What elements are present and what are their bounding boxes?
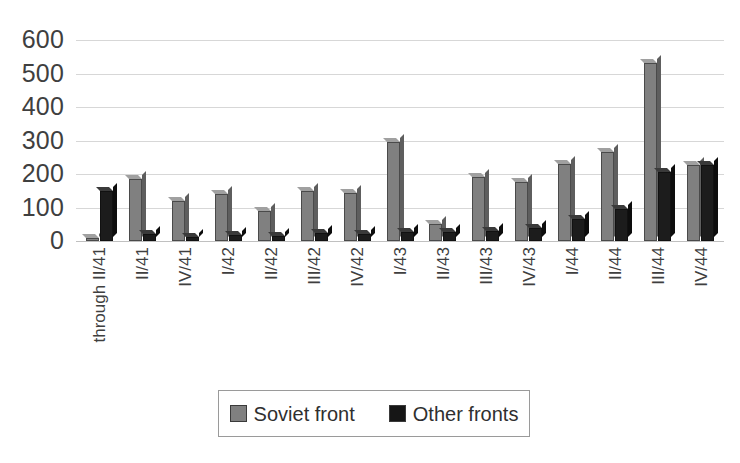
bar-soviet (387, 142, 400, 241)
y-axis-tick: 500 (22, 61, 64, 86)
x-axis-label: III/42 (306, 247, 323, 285)
x-axis-tick: IV/41 (164, 247, 207, 372)
bar-other (572, 219, 585, 241)
bar-cluster (379, 40, 422, 241)
bar-cluster (507, 40, 550, 241)
bar-clusters (76, 40, 724, 241)
bar-cluster (250, 40, 293, 241)
bar-other (443, 232, 456, 241)
bar-other (529, 228, 542, 241)
bar-cluster (636, 40, 679, 241)
x-axis-label: II/43 (434, 247, 451, 280)
x-axis-label: IV/41 (177, 247, 194, 287)
bar-cluster (679, 40, 722, 241)
y-axis-tick: 600 (22, 27, 64, 52)
soviet-swatch-icon (230, 405, 247, 422)
bar-soviet (515, 182, 528, 241)
bar-other (701, 165, 714, 241)
bar-cluster (207, 40, 250, 241)
x-axis-tick: IV/44 (679, 247, 722, 372)
x-axis-tick: III/44 (636, 247, 679, 372)
bar-soviet (86, 238, 99, 241)
bar-cluster (550, 40, 593, 241)
x-axis-tick: II/43 (422, 247, 465, 372)
bar-other (486, 231, 499, 241)
y-axis-tick: 200 (22, 161, 64, 186)
bar-other (315, 233, 328, 241)
x-axis-label: II/44 (606, 247, 623, 280)
y-axis-tick: 300 (22, 128, 64, 153)
bar-cluster (422, 40, 465, 241)
bar-soviet (644, 63, 657, 241)
x-axis-tick: through II/41 (78, 247, 121, 372)
x-axis-tick: II/42 (250, 247, 293, 372)
bar-other (358, 234, 371, 241)
x-axis-label: III/43 (477, 247, 494, 285)
x-axis-tick: II/41 (121, 247, 164, 372)
bar-other (401, 232, 414, 241)
bar-other (229, 235, 242, 241)
gridline-baseline (76, 241, 724, 242)
bar-cluster (336, 40, 379, 241)
x-axis-tick: I/42 (207, 247, 250, 372)
legend-label: Soviet front (254, 404, 355, 424)
x-axis-tick: III/42 (293, 247, 336, 372)
other-swatch-icon (389, 405, 406, 422)
bar-soviet (258, 211, 271, 241)
bar-other (658, 172, 671, 241)
x-axis-label: IV/44 (692, 247, 709, 287)
bar-cluster (121, 40, 164, 241)
x-axis-label: I/42 (220, 247, 237, 275)
bar-soviet (601, 152, 614, 241)
bar-other (186, 237, 199, 241)
y-axis-tick: 400 (22, 94, 64, 119)
x-axis-label: I/43 (392, 247, 409, 275)
bar-soviet (344, 193, 357, 241)
legend-label: Other fronts (413, 404, 519, 424)
y-axis: 600 500 400 300 200 100 0 (0, 0, 72, 463)
bar-cluster (464, 40, 507, 241)
x-axis-label: through II/41 (91, 247, 108, 342)
bar-soviet (687, 165, 700, 241)
bar-cluster (78, 40, 121, 241)
bar-soviet (472, 177, 485, 241)
x-axis-tick: I/43 (379, 247, 422, 372)
bar-soviet (301, 191, 314, 241)
x-axis-tick: I/44 (550, 247, 593, 372)
y-axis-tick: 100 (22, 195, 64, 220)
x-axis-tick: IV/43 (507, 247, 550, 372)
bar-soviet (558, 164, 571, 241)
x-axis-tick: IV/42 (336, 247, 379, 372)
bar-soviet (172, 201, 185, 241)
x-axis-label: II/41 (134, 247, 151, 280)
legend-item-soviet-front: Soviet front (230, 404, 355, 424)
bar-soviet (429, 224, 442, 241)
legend: Soviet front Other fronts (218, 390, 530, 437)
legend-item-other-fronts: Other fronts (389, 404, 519, 424)
x-axis-label: III/44 (649, 247, 666, 285)
x-axis-label: I/44 (563, 247, 580, 275)
bar-chart: 600 500 400 300 200 100 0 through II/41I… (0, 0, 740, 463)
x-axis: through II/41II/41IV/41I/42II/42III/42IV… (76, 247, 724, 372)
bar-cluster (593, 40, 636, 241)
bar-other (143, 234, 156, 241)
bar-other (615, 209, 628, 241)
bar-cluster (293, 40, 336, 241)
y-axis-tick: 0 (50, 228, 64, 253)
plot-area (76, 40, 724, 241)
x-axis-label: IV/43 (520, 247, 537, 287)
x-axis-tick: III/43 (464, 247, 507, 372)
bar-soviet (215, 194, 228, 241)
bar-cluster (164, 40, 207, 241)
x-axis-label: II/42 (263, 247, 280, 280)
bar-other (100, 191, 113, 241)
x-axis-tick: II/44 (593, 247, 636, 372)
x-axis-label: IV/42 (349, 247, 366, 287)
bar-other (272, 236, 285, 241)
